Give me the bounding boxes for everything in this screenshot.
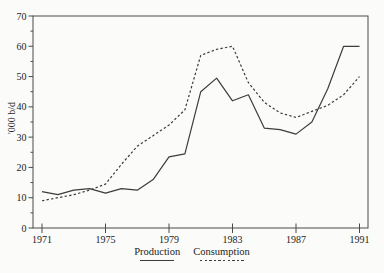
y-tick-label: 70 [17, 11, 27, 22]
production-line-sample [140, 260, 174, 261]
x-tick-label: 1979 [159, 234, 179, 245]
x-tick-label: 1971 [32, 234, 52, 245]
y-tick-label: 0 [22, 223, 27, 234]
chart-legend: Production Consumption [0, 246, 384, 261]
legend-label-production: Production [134, 246, 180, 258]
x-tick-label: 1991 [350, 234, 370, 245]
line-chart: 010203040506070197119751979198319871991 … [0, 0, 384, 273]
y-tick-label: 40 [17, 101, 27, 112]
chart-canvas: 010203040506070197119751979198319871991 [0, 0, 384, 273]
y-tick-label: 30 [17, 132, 27, 143]
plot-frame [33, 16, 368, 228]
y-tick-label: 10 [17, 192, 27, 203]
legend-label-consumption: Consumption [193, 246, 250, 258]
x-tick-label: 1983 [223, 234, 243, 245]
x-tick-label: 1987 [286, 234, 306, 245]
y-tick-label: 20 [17, 162, 27, 173]
consumption-line-sample [200, 260, 244, 261]
legend-item-production: Production [134, 246, 180, 261]
y-tick-label: 50 [17, 71, 27, 82]
legend-item-consumption: Consumption [193, 246, 250, 261]
y-tick-label: 60 [17, 41, 27, 52]
production-line [42, 46, 360, 194]
x-tick-label: 1975 [96, 234, 116, 245]
y-axis-title: '000 b/d [6, 97, 18, 139]
consumption-line [42, 46, 360, 200]
